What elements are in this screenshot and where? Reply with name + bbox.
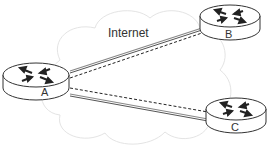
router-c-label: C: [231, 122, 239, 133]
router-a[interactable]: [3, 63, 69, 100]
cloud-label: Internet: [108, 27, 149, 39]
router-b-label: B: [225, 29, 232, 40]
router-a-label: A: [41, 87, 48, 98]
